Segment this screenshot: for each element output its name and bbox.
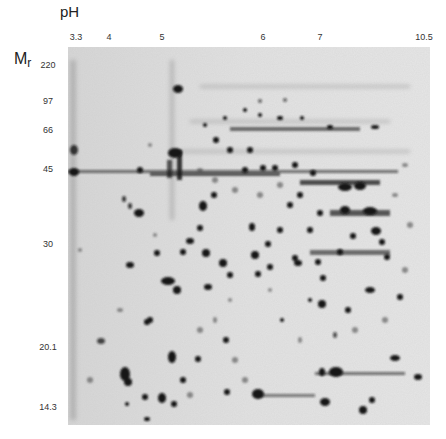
ph-tick: 4 [106, 32, 111, 42]
mr-tick: 66 [43, 125, 53, 135]
gel-figure: pH Mr 3.3 4 5 6 7 10.5 220 97 66 45 30 2… [0, 0, 446, 439]
mr-tick: 97 [43, 96, 53, 106]
mr-axis-title-main: M [14, 50, 27, 67]
ph-tick: 3.3 [70, 32, 83, 42]
mr-tick: 45 [43, 164, 53, 174]
ph-tick: 5 [159, 32, 164, 42]
ph-tick: 6 [260, 32, 265, 42]
ph-tick: 10.5 [415, 32, 433, 42]
mr-tick: 14.3 [39, 402, 57, 412]
mr-tick: 220 [40, 60, 55, 70]
ph-tick: 7 [317, 32, 322, 42]
ph-axis-title: pH [60, 3, 79, 20]
mr-tick: 30 [43, 239, 53, 249]
mr-axis-title-sub: r [27, 56, 31, 70]
mr-axis-title: Mr [14, 50, 31, 70]
mr-tick: 20.1 [39, 342, 57, 352]
gel-image [68, 47, 430, 425]
